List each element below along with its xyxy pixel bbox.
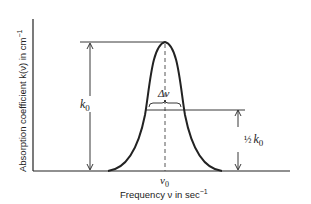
- diagram-canvas: Δν k0 ½k0 ν0 Frequency ν in sec−1 Absorp…: [0, 0, 311, 204]
- width-label: Δν: [157, 87, 169, 99]
- center-frequency-label: ν0: [160, 174, 169, 189]
- x-axis-label: Frequency ν in sec−1: [120, 188, 208, 200]
- diagram-svg: Δν k0 ½k0 ν0 Frequency ν in sec−1 Absorp…: [0, 0, 311, 204]
- y-axis-label: Absorption coefficient k(ν) in cm−1: [16, 29, 28, 172]
- peak-label: k0: [80, 97, 90, 113]
- half-peak-label: ½k0: [244, 132, 264, 148]
